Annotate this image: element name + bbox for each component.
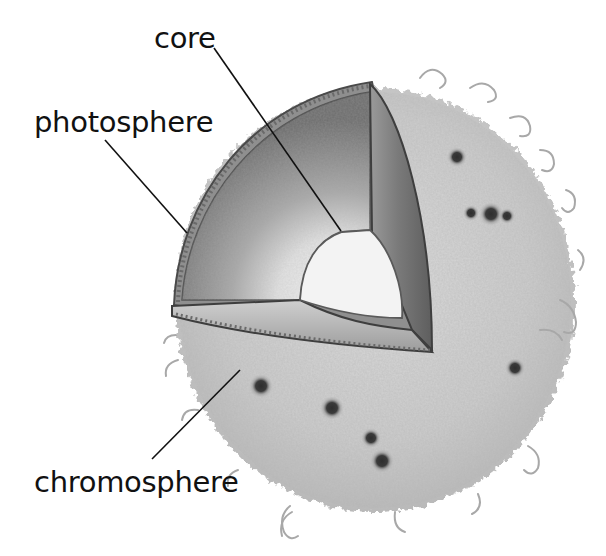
sun-structure-diagram: core photosphere chromosphere: [0, 0, 606, 556]
label-chromosphere: chromosphere: [34, 468, 239, 497]
label-core: core: [154, 24, 216, 53]
photosphere-leader-line: [105, 140, 187, 233]
label-photosphere: photosphere: [34, 108, 213, 137]
